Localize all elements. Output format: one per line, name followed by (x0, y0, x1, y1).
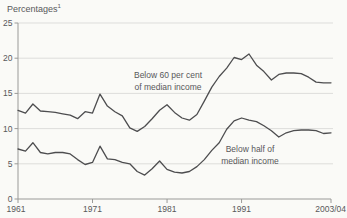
y-tick-label-0: 0 (8, 194, 13, 204)
annotation-below-half-line-2: median income (221, 156, 279, 166)
x-tick-label-2003/04: 2003/04 (315, 204, 346, 214)
x-tick-label-1961: 1961 (7, 204, 26, 214)
y-tick-label-20: 20 (3, 53, 13, 63)
x-tick-label-1981: 1981 (158, 204, 177, 214)
x-tick-label-1971: 1971 (83, 204, 102, 214)
annotation-below-60-line-2: of median income (134, 82, 201, 92)
y-tick-label-15: 15 (3, 88, 13, 98)
annotation-below-half-line-1: Below half of (226, 144, 275, 154)
poverty-trend-chart: Percentages1 051015202519611971198119912… (0, 0, 347, 218)
annotation-below-60-line-1: Below 60 per cent (134, 70, 203, 80)
series-line-below-half (18, 118, 331, 175)
y-tick-label-5: 5 (8, 159, 13, 169)
series-line-below-60-per-cent (18, 54, 331, 131)
x-tick-label-1991: 1991 (232, 204, 251, 214)
y-tick-label-25: 25 (3, 18, 13, 28)
y-tick-label-10: 10 (3, 124, 13, 134)
line-chart-canvas: 051015202519611971198119912003/04Below 6… (0, 0, 347, 218)
